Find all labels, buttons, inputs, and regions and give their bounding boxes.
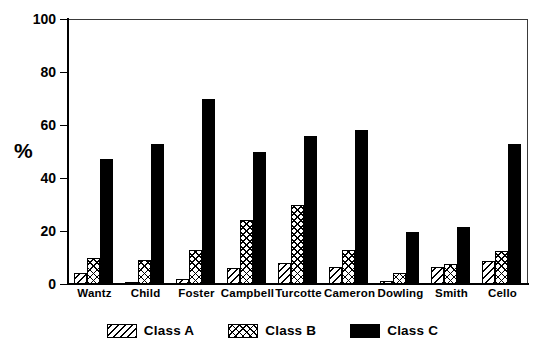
bar-group: [222, 19, 273, 284]
bar-campbell-class-a: [227, 268, 240, 284]
bar-group: [426, 19, 477, 284]
bar-smith-class-b: [444, 264, 457, 284]
y-axis-tick-label: 20: [10, 224, 56, 238]
diagonal-hatch-swatch-icon: [107, 324, 137, 338]
chart-legend: Class A Class B Class C: [0, 324, 545, 338]
bar-dowling-class-a: [380, 281, 393, 284]
bar-group: [324, 19, 375, 284]
y-axis-tick-label: 60: [10, 118, 56, 132]
bar-turcotte-class-c: [304, 136, 317, 284]
y-axis-tick: [60, 178, 68, 179]
bar-dowling-class-b: [393, 273, 406, 284]
y-axis-tick-label: 40: [10, 171, 56, 185]
bar-campbell-class-b: [240, 220, 253, 284]
cross-hatch-swatch-icon: [228, 324, 258, 338]
bar-cello-class-c: [508, 144, 521, 284]
bar-cameron-class-b: [342, 250, 355, 284]
legend-item-class-a: Class A: [107, 324, 194, 338]
bar-child-class-c: [151, 144, 164, 284]
bar-child-class-b: [138, 260, 151, 284]
legend-item-class-c: Class C: [350, 324, 438, 338]
legend-label: Class A: [144, 324, 194, 338]
y-axis-tick: [60, 284, 68, 285]
bar-wantz-class-a: [74, 273, 87, 284]
bar-cameron-class-c: [355, 130, 368, 284]
bar-group: [69, 19, 120, 284]
bar-child-class-a: [125, 282, 138, 284]
bar-group: [120, 19, 171, 284]
category-label-cello: Cello: [469, 288, 536, 300]
y-axis-tick-label: 0: [10, 277, 56, 291]
bar-group: [477, 19, 528, 284]
bar-chart: % 020406080100 WantzChildFosterCampbellT…: [0, 0, 545, 352]
bar-wantz-class-b: [87, 258, 100, 285]
bar-group: [273, 19, 324, 284]
y-axis-tick: [60, 125, 68, 126]
bar-cello-class-a: [482, 261, 495, 284]
solid-black-swatch-icon: [350, 324, 380, 338]
bar-smith-class-c: [457, 227, 470, 284]
bar-foster-class-b: [189, 250, 202, 284]
bar-foster-class-a: [176, 279, 189, 284]
legend-label: Class C: [387, 324, 438, 338]
bar-turcotte-class-a: [278, 263, 291, 284]
plot-area: [69, 19, 528, 284]
bar-group: [171, 19, 222, 284]
bar-foster-class-c: [202, 99, 215, 285]
bar-dowling-class-c: [406, 232, 419, 284]
bar-cello-class-b: [495, 251, 508, 284]
bar-group: [375, 19, 426, 284]
legend-label: Class B: [265, 324, 316, 338]
y-axis-tick: [60, 19, 68, 20]
y-axis-tick-label: 100: [10, 12, 56, 26]
y-axis-tick: [60, 72, 68, 73]
bar-turcotte-class-b: [291, 205, 304, 285]
bar-smith-class-a: [431, 267, 444, 284]
y-axis-tick: [60, 231, 68, 232]
bar-campbell-class-c: [253, 152, 266, 285]
legend-item-class-b: Class B: [228, 324, 316, 338]
y-axis-tick-label: 80: [10, 65, 56, 79]
bar-wantz-class-c: [100, 159, 113, 284]
y-axis-label: %: [6, 140, 40, 161]
bar-cameron-class-a: [329, 267, 342, 284]
